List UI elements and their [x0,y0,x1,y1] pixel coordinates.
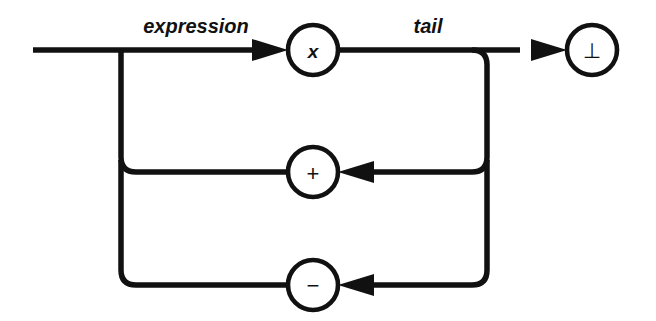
node-minus[interactable]: − [288,260,338,310]
arrow-left-into-plus-icon [338,161,374,183]
rail-right-branch-descender [370,50,487,172]
node-bottom-tack[interactable]: ⊥ [567,25,617,75]
node-bottom-tack-label: ⊥ [583,39,601,63]
node-plus-label: + [307,161,320,186]
rail-right-branch-lower-descender [370,160,487,285]
node-x[interactable]: x [288,25,338,75]
railroad-diagram-svg: x + − ⊥ expression tail [0,0,656,321]
rail-group [33,50,520,285]
node-minus-label: − [307,273,320,298]
arrow-right-into-bottom-icon [531,39,567,61]
node-x-label: x [307,41,320,62]
arrow-left-into-minus-icon [338,274,374,296]
rail-left-branch-lower-descender [121,160,292,285]
edge-label-expression: expression [143,15,249,37]
railroad-diagram-canvas: x + − ⊥ expression tail [0,0,656,321]
arrow-right-into-x-icon [252,39,288,61]
edge-label-tail: tail [414,15,443,37]
rail-left-branch-descender [121,50,292,172]
node-plus[interactable]: + [288,147,338,197]
